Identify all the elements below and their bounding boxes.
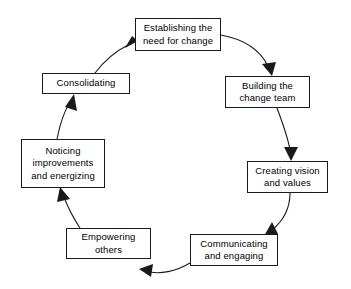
node-label: Building the change team	[236, 80, 298, 105]
node-communicating-and-engaging[interactable]: Communicating and engaging	[190, 234, 278, 266]
arrow-consolidating-to-establishing	[95, 36, 138, 73]
arrow-building-to-creating	[277, 108, 298, 161]
arrow-noticing-to-consolidating	[57, 94, 77, 139]
node-establishing-need-for-change[interactable]: Establishing the need for change	[135, 18, 221, 51]
change-cycle-diagram: Establishing the need for change Buildin…	[0, 0, 351, 289]
node-empowering-others[interactable]: Empowering others	[66, 228, 151, 259]
arrow-empowering-to-noticing	[57, 187, 80, 228]
arrow-communicating-to-empowering	[139, 263, 190, 277]
node-label: Noticing improvements and energizing	[28, 145, 98, 183]
arrow-establishing-to-building	[221, 35, 276, 76]
node-label: Creating vision and values	[252, 165, 322, 190]
node-label: Establishing the need for change	[140, 22, 216, 47]
node-noticing-improvements-and-energizing[interactable]: Noticing improvements and energizing	[21, 139, 105, 188]
node-consolidating[interactable]: Consolidating	[42, 73, 130, 94]
node-building-change-team[interactable]: Building the change team	[225, 76, 310, 108]
node-label: Consolidating	[54, 77, 119, 90]
node-label: Communicating and engaging	[197, 238, 270, 263]
node-label: Empowering others	[79, 231, 139, 256]
node-creating-vision-and-values[interactable]: Creating vision and values	[247, 161, 328, 193]
arrow-creating-to-communicating	[264, 193, 290, 236]
